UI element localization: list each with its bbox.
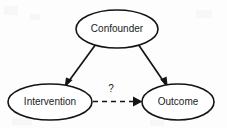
arrowhead-icon xyxy=(133,97,143,107)
edge-confounder-to-intervention xyxy=(65,44,97,88)
node-confounder-label: Confounder xyxy=(91,23,144,34)
node-intervention-label: Intervention xyxy=(24,96,76,107)
edge-confounder-to-outcome xyxy=(138,44,168,88)
node-confounder[interactable]: Confounder xyxy=(76,10,158,48)
node-outcome-label: Outcome xyxy=(158,96,199,107)
edge-label-question-mark: ? xyxy=(108,83,114,94)
edge-intervention-to-outcome: ? xyxy=(93,83,143,107)
node-intervention[interactable]: Intervention xyxy=(8,84,92,120)
causal-diagram: ? Confounder Intervention Outcome xyxy=(0,0,227,128)
diagram-canvas: ? Confounder Intervention Outcome xyxy=(0,0,227,128)
node-outcome[interactable]: Outcome xyxy=(142,84,214,120)
